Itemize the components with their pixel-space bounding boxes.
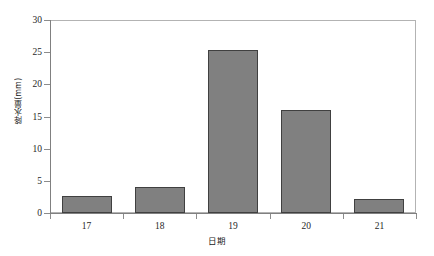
y-tick-label: 20 [16,79,42,89]
y-tick-label: 30 [16,15,42,25]
y-tick-label: 10 [16,144,42,154]
x-tick-label-17: 17 [67,221,107,232]
precipitation-bar-chart: 降水量(mm) 051015202530 1718192021 日期 [0,0,434,256]
bar-19 [208,50,258,213]
y-tick-mark [44,149,50,150]
y-tick-label: 0 [16,208,42,218]
y-tick-mark [44,181,50,182]
x-tick-mark [416,214,417,219]
y-tick-label: 5 [16,176,42,186]
y-tick-label: 25 [16,47,42,57]
x-tick-label-19: 19 [213,221,253,232]
x-tick-mark [270,214,271,219]
bar-18 [135,187,185,213]
x-tick-label-20: 20 [286,221,326,232]
x-axis-line [50,213,417,214]
x-tick-label-21: 21 [359,221,399,232]
x-tick-mark [123,214,124,219]
x-tick-label-18: 18 [140,221,180,232]
y-tick-label: 15 [16,112,42,122]
y-tick-mark [44,84,50,85]
x-tick-mark [196,214,197,219]
bar-21 [354,199,404,213]
y-tick-mark [44,52,50,53]
y-tick-mark [44,117,50,118]
bar-20 [281,110,331,213]
y-tick-mark [44,20,50,21]
x-axis-title: 日期 [0,234,434,246]
x-tick-mark [343,214,344,219]
bar-17 [62,196,112,213]
y-axis-line [50,20,51,214]
x-tick-mark [50,214,51,219]
